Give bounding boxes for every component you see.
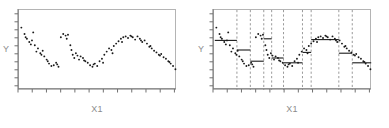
two-panel-figure: Y X1 Y X1 [0, 0, 389, 128]
y-axis-label: Y [3, 44, 9, 54]
scatter-panel: Y X1 [0, 0, 195, 128]
segmented-fit-panel: Y X1 [195, 0, 389, 128]
y-axis-label: Y [198, 44, 204, 54]
x-axis-label: X1 [18, 104, 176, 114]
x-axis-label: X1 [213, 104, 371, 114]
